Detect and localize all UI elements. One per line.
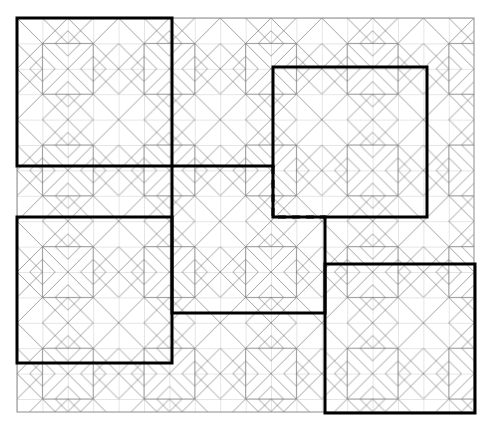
tiling-figure	[0, 0, 497, 428]
diagram-canvas	[0, 0, 497, 428]
motif-tiling	[17, 18, 474, 412]
